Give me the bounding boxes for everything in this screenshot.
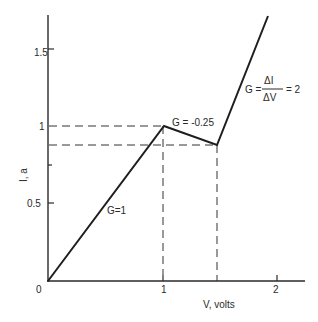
y-label-0.5: 0.5 (27, 198, 41, 209)
y-label-1.5: 1.5 (34, 47, 48, 58)
svg-text:G =: G = (245, 84, 262, 95)
origin-label: 0 (36, 284, 42, 295)
svg-text:ΔI: ΔI (264, 75, 273, 86)
x-axis-title: V, volts (203, 299, 235, 310)
svg-text:ΔV: ΔV (263, 92, 277, 103)
svg-text:= 2: = 2 (286, 84, 301, 95)
iv-chart: 1.5 1 0.5 0 1 2 V, volts I, a G=1 G = -0… (0, 0, 318, 322)
annotation-g1: G=1 (107, 205, 127, 216)
x-label-2: 2 (273, 284, 279, 295)
annotation-g2: G = -0.25 (172, 117, 214, 128)
y-axis-title: I, a (18, 168, 29, 182)
annotation-g3: G = ΔI ΔV = 2 (245, 75, 301, 103)
y-label-1: 1 (39, 121, 45, 132)
iv-curve (48, 16, 268, 281)
x-label-1: 1 (161, 284, 167, 295)
